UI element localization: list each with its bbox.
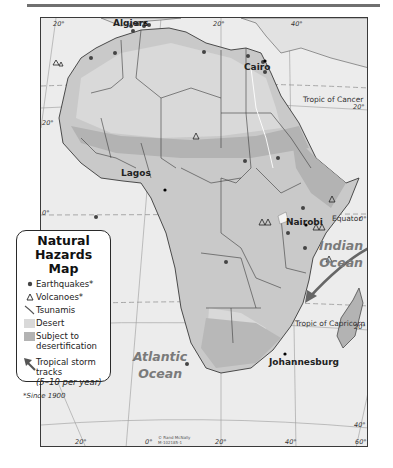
top-rule	[27, 4, 380, 7]
desertification-swatch-icon	[24, 332, 35, 341]
city-label-johannesburg: Johannesburg	[269, 357, 339, 367]
tick-bottom-20w: 20°	[75, 438, 87, 446]
desert-swatch-icon	[24, 319, 35, 328]
tick-left-20n: 20°	[42, 119, 54, 127]
tick-top-40e: 40°	[291, 20, 303, 28]
tick-top-20e: 20°	[213, 20, 225, 28]
tick-top-0: 0°	[136, 20, 143, 28]
map-credit: © Rand McNally M-102185-1	[158, 435, 190, 445]
tick-right-40s: 40°	[354, 421, 366, 429]
tick-bottom-20e: 20°	[215, 438, 227, 446]
map-legend: Natural Hazards Map Earthquakes* Volcano…	[16, 230, 111, 382]
label-atlantic-ocean: Atlantic Ocean	[133, 348, 187, 382]
tick-bottom-60e: 60°	[355, 438, 367, 446]
tick-bottom-0: 0°	[145, 438, 152, 446]
tsunami-line-icon	[23, 305, 36, 315]
legend-item-desert: Desert	[23, 318, 104, 328]
city-label-nairobi: Nairobi	[286, 217, 323, 227]
storm-arrow-icon	[23, 357, 36, 379]
legend-item-earthquakes: Earthquakes*	[23, 279, 104, 289]
earthquake-dot-icon	[23, 279, 36, 289]
tick-top-20w: 20°	[53, 20, 65, 28]
legend-item-tsunamis: Tsunamis	[23, 305, 104, 315]
city-label-lagos: Lagos	[121, 168, 151, 178]
label-equator: Equator	[332, 214, 361, 223]
tick-right-0: 0°	[359, 215, 366, 223]
legend-footnote: *Since 1900	[23, 392, 104, 400]
volcano-triangle-icon	[23, 292, 36, 302]
tick-right-20s: 20°	[354, 323, 366, 331]
tick-right-20n: 20°	[353, 103, 365, 111]
label-indian-ocean: Indian Ocean	[319, 237, 363, 271]
legend-item-storm-tracks: Tropical storm tracks (5–10 per year)	[23, 357, 104, 387]
tick-left-0: 0°	[42, 209, 49, 217]
city-label-cairo: Cairo	[244, 62, 270, 72]
madagascar	[337, 288, 363, 348]
legend-title: Natural Hazards Map	[23, 234, 104, 276]
legend-item-volcanoes: Volcanoes*	[23, 292, 104, 302]
legend-item-desertification: Subject to desertification	[23, 331, 104, 351]
tick-bottom-40e: 40°	[285, 438, 297, 446]
